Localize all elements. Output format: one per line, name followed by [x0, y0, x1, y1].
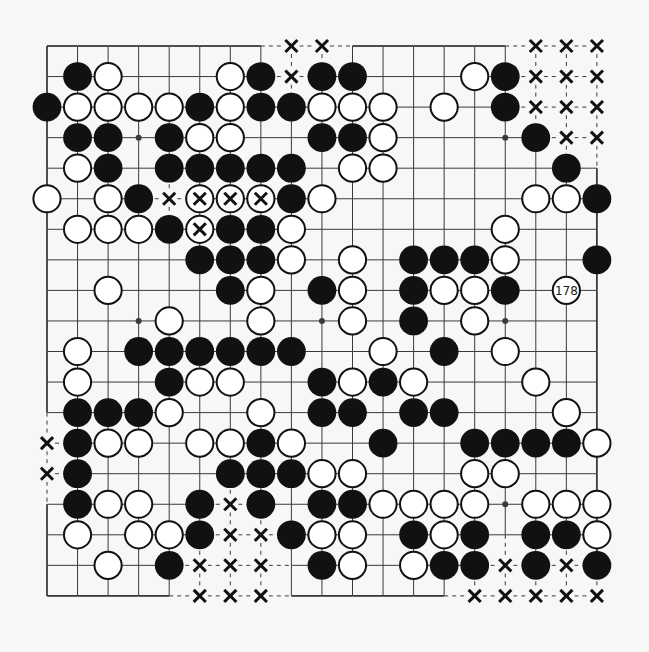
white-stone [400, 368, 427, 395]
x-mark-icon [222, 557, 238, 573]
white-stone [492, 246, 519, 273]
black-stone [155, 337, 184, 366]
black-stone [246, 337, 275, 366]
white-stone [186, 430, 213, 457]
white-stone [278, 430, 305, 457]
white-stone [583, 430, 610, 457]
white-stone [308, 460, 335, 487]
white-stone [156, 94, 183, 121]
black-stone [491, 62, 520, 91]
x-mark-icon [192, 557, 208, 573]
x-mark-icon [589, 588, 605, 604]
x-mark-icon [558, 38, 574, 54]
x-mark-icon [253, 527, 269, 543]
star-point [502, 318, 508, 324]
x-mark-icon [192, 588, 208, 604]
black-stone [124, 398, 153, 427]
white-stone [156, 307, 183, 334]
white-stone-marked [217, 185, 244, 212]
black-stone [338, 123, 367, 152]
white-stone [339, 521, 366, 548]
white-stone [217, 430, 244, 457]
black-stone [124, 184, 153, 213]
black-stone [246, 62, 275, 91]
white-stone [95, 216, 122, 243]
numbered-white-stone: 178 [553, 277, 580, 304]
white-stone [95, 94, 122, 121]
white-stone [339, 246, 366, 273]
x-mark-icon [497, 588, 513, 604]
x-mark-icon [528, 38, 544, 54]
black-stone [155, 215, 184, 244]
black-stone [399, 276, 428, 305]
white-stone [553, 399, 580, 426]
black-stone [246, 215, 275, 244]
white-stone [95, 491, 122, 518]
white-stone-marked [247, 185, 274, 212]
black-stone [63, 490, 92, 519]
move-number: 178 [555, 284, 578, 298]
white-stone [278, 216, 305, 243]
x-mark-icon [39, 435, 55, 451]
black-stone [491, 276, 520, 305]
white-stone [583, 521, 610, 548]
black-stone [63, 123, 92, 152]
black-stone [277, 93, 306, 122]
x-mark-icon [589, 38, 605, 54]
black-stone [185, 337, 214, 366]
black-stone [63, 62, 92, 91]
black-stone [94, 154, 123, 183]
black-stone [246, 429, 275, 458]
black-stone [308, 62, 337, 91]
black-stone [583, 245, 612, 274]
black-stone [430, 337, 459, 366]
white-stone [339, 307, 366, 334]
white-stone [64, 368, 91, 395]
white-stone [431, 521, 458, 548]
black-stone [460, 245, 489, 274]
black-stone [277, 154, 306, 183]
x-mark-icon [253, 588, 269, 604]
black-stone [277, 184, 306, 213]
white-stone [125, 216, 152, 243]
go-board: 178 [0, 0, 649, 652]
x-mark-icon [528, 69, 544, 85]
black-stone [491, 429, 520, 458]
black-stone [246, 459, 275, 488]
black-stone [338, 62, 367, 91]
white-stone [369, 94, 396, 121]
x-mark-icon [589, 99, 605, 115]
white-stone [33, 185, 60, 212]
x-mark-icon [253, 557, 269, 573]
black-stone [369, 429, 398, 458]
black-stone [246, 490, 275, 519]
white-stone [431, 491, 458, 518]
white-stone [369, 155, 396, 182]
white-stone [247, 399, 274, 426]
white-stone [308, 185, 335, 212]
white-stone [278, 246, 305, 273]
black-stone [460, 551, 489, 580]
star-point [502, 501, 508, 507]
x-mark-icon [528, 99, 544, 115]
white-stone [522, 368, 549, 395]
black-stone [155, 368, 184, 397]
black-stone [185, 490, 214, 519]
black-stone [308, 123, 337, 152]
black-stone [185, 520, 214, 549]
black-stone [521, 551, 550, 580]
black-stone [216, 276, 245, 305]
white-stone [95, 552, 122, 579]
x-mark-icon [558, 588, 574, 604]
white-stone [64, 521, 91, 548]
star-point [136, 135, 142, 141]
black-stone [246, 93, 275, 122]
white-stone [308, 521, 335, 548]
white-stone [217, 368, 244, 395]
black-stone [552, 154, 581, 183]
white-stone [400, 552, 427, 579]
white-stone [339, 277, 366, 304]
white-stone [339, 460, 366, 487]
white-stone [156, 399, 183, 426]
white-stone [217, 63, 244, 90]
